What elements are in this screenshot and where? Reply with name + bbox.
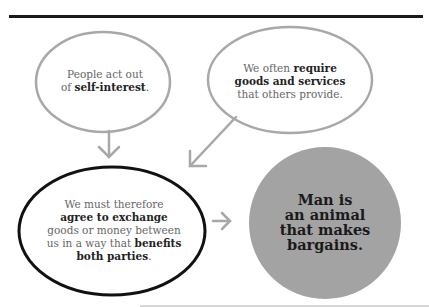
bubble-2-text: We often require goods and services that… [225, 62, 355, 101]
bubble-2-line: We often [243, 62, 293, 74]
bubble-1-text: People act out of self-interest. [50, 68, 160, 94]
arrow-right-icon [213, 213, 230, 229]
bubble-1-line: People act out [67, 68, 143, 80]
bubble-2-bold: require [293, 62, 336, 74]
bubble-3-line: We must therefore [64, 198, 163, 210]
bubble-1-bold: self-interest [74, 81, 145, 93]
arrow-down-left-icon [190, 117, 236, 166]
bubble-3-line: us in a way that [47, 237, 135, 249]
arrow-down-icon [99, 131, 119, 157]
conclusion-line: bargains. [287, 236, 363, 253]
bubble-2-line: that others provide. [237, 88, 343, 100]
bubble-1-punct: . [146, 81, 149, 93]
conclusion-text: Man is an animal that makes bargains. [255, 192, 395, 252]
bubble-3-bold: benefits [135, 237, 182, 249]
bubble-3-text: We must therefore agree to exchange good… [34, 198, 194, 263]
bubble-3-punct: . [148, 250, 151, 262]
bubble-3-line: goods or money between [47, 224, 180, 236]
bubble-1-line: of [61, 81, 75, 93]
bubble-3-bold: both parties [77, 250, 149, 262]
bubble-2-bold: goods and services [235, 75, 346, 87]
bubble-3-bold: agree to exchange [60, 211, 168, 223]
